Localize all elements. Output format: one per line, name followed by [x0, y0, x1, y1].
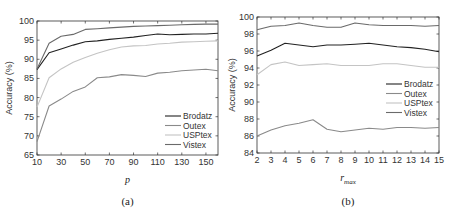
x-tick-label: 7 — [324, 155, 329, 165]
x-tick-label: 5 — [296, 155, 301, 165]
legend-label: Brodatz — [183, 111, 212, 121]
x-tick-label: 9 — [352, 155, 357, 165]
figure: 103050709011013015065707580859095100Accu… — [0, 0, 454, 213]
y-tick-label: 75 — [24, 112, 34, 122]
y-axis-label: Accuracy (%) — [227, 58, 237, 112]
x-tick-label: 8 — [338, 155, 343, 165]
x-tick-label: 50 — [80, 157, 90, 167]
y-tick-label: 100 — [19, 16, 34, 26]
x-tick-label: 6 — [310, 155, 315, 165]
y-tick-label: 92 — [244, 80, 254, 90]
y-tick-label: 84 — [244, 148, 254, 158]
y-tick-label: 100 — [239, 12, 254, 22]
x-tick-label: 130 — [174, 157, 189, 167]
y-tick-label: 90 — [24, 54, 34, 64]
x-tick-label: 2 — [254, 155, 259, 165]
legend-label: Vistex — [404, 108, 428, 118]
y-tick-label: 95 — [24, 35, 34, 45]
x-tick-label: 11 — [378, 155, 387, 165]
x-tick-label: 15 — [434, 155, 444, 165]
x-tick-label: 90 — [129, 157, 139, 167]
legend-label: Outex — [404, 89, 427, 99]
legend-label: USPtex — [183, 130, 213, 140]
chart-b: 234567891011121314158486889092949698100A… — [227, 12, 444, 208]
figure-caption: (a) — [121, 195, 134, 208]
y-tick-label: 98 — [244, 29, 254, 39]
x-tick-label: 12 — [392, 155, 402, 165]
legend-label: Vistex — [183, 140, 207, 150]
y-tick-label: 86 — [244, 131, 254, 141]
x-tick-label: 13 — [406, 155, 416, 165]
x-tick-label: 70 — [104, 157, 114, 167]
x-tick-label: 10 — [364, 155, 374, 165]
y-tick-label: 85 — [24, 73, 34, 83]
chart-a: 103050709011013015065707580859095100Accu… — [4, 16, 218, 208]
x-tick-label: 110 — [150, 157, 164, 167]
y-axis-label: Accuracy (%) — [4, 61, 14, 115]
legend-label: Brodatz — [404, 79, 433, 89]
y-tick-label: 94 — [244, 63, 254, 73]
x-tick-label: 150 — [198, 157, 213, 167]
x-axis-label: rmax — [340, 172, 356, 186]
y-tick-label: 96 — [244, 46, 254, 56]
figure-caption: (b) — [342, 195, 355, 208]
y-tick-label: 65 — [24, 150, 34, 160]
y-tick-label: 88 — [244, 114, 254, 124]
x-tick-label: 3 — [268, 155, 273, 165]
x-tick-label: 30 — [56, 157, 66, 167]
legend-label: USPtex — [404, 98, 434, 108]
x-tick-label: 4 — [282, 155, 287, 165]
y-tick-label: 90 — [244, 97, 254, 107]
legend-label: Outex — [183, 121, 206, 131]
x-tick-label: 14 — [420, 155, 430, 165]
y-tick-label: 80 — [24, 93, 34, 103]
x-axis-label: p — [124, 174, 130, 185]
y-tick-label: 70 — [24, 131, 34, 141]
